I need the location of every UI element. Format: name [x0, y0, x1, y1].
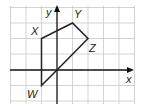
point-label-z: Z — [88, 42, 97, 54]
y-axis-arrow-icon — [54, 5, 60, 12]
point-label-x: X — [30, 25, 39, 37]
x-axis-label: x — [125, 73, 132, 85]
point-label-w: W — [27, 88, 39, 100]
coordinate-plane: x y X Y Z W — [0, 0, 141, 107]
point-label-y: Y — [74, 8, 82, 20]
